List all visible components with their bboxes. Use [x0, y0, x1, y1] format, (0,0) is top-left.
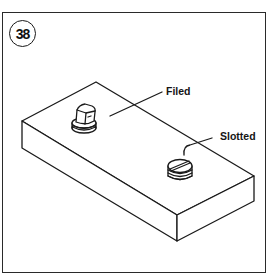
label-filed: Filed [166, 85, 191, 97]
figure-38: 38 [0, 0, 270, 280]
label-slotted: Slotted [220, 130, 256, 142]
base-block [22, 82, 254, 241]
slotted-screw [168, 160, 192, 180]
